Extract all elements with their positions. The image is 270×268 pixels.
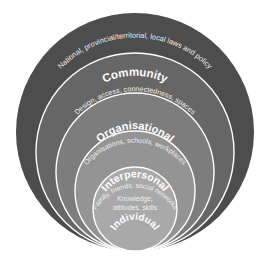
label-individual-subtitle-line1: Knowledge,	[117, 195, 153, 203]
nested-circles-canvas: Public policy National, provincial/terri…	[0, 0, 270, 268]
label-individual-subtitle-line2: attitudes, skills	[113, 204, 158, 211]
label-public-policy-title: Public policy	[97, 0, 174, 14]
socio-ecological-model-diagram: Public policy National, provincial/terri…	[0, 0, 270, 268]
